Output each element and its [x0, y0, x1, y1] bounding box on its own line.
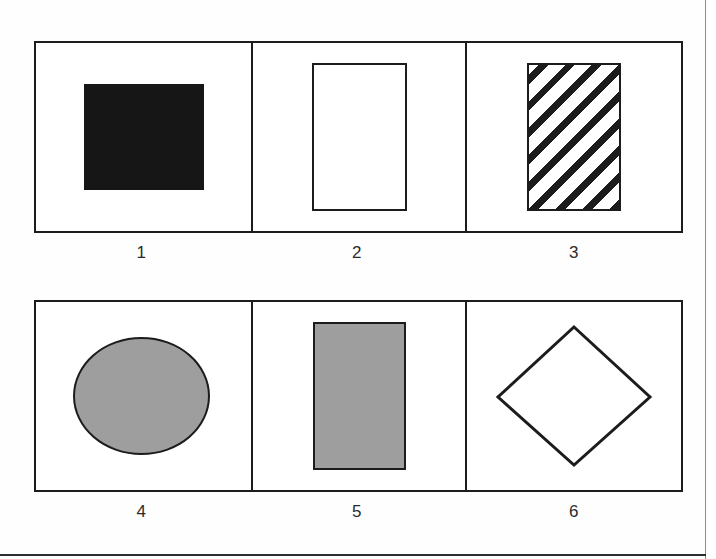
shape-cell-5: [251, 302, 467, 490]
page-edge-bottom-rule: [0, 554, 706, 556]
shape-label-4: 4: [34, 499, 249, 525]
shape-cell-4: [36, 302, 251, 490]
shape-label-2: 2: [249, 240, 465, 266]
solid-black-square-icon: [84, 84, 204, 190]
shape-cell-3: [467, 43, 681, 231]
shape-label-5: 5: [249, 499, 465, 525]
gray-ellipse-icon: [73, 337, 210, 455]
shape-label-3: 3: [465, 240, 683, 266]
shape-cell-2: [251, 43, 467, 231]
shape-row-2: [34, 300, 683, 492]
shape-row-2-labels: 4 5 6: [34, 499, 683, 525]
shape-label-1: 1: [34, 240, 249, 266]
shape-figure: 1 2 3 4 5 6: [0, 0, 706, 554]
hatched-rectangle-icon: [527, 63, 621, 211]
shape-row-1: [34, 41, 683, 233]
gray-rectangle-icon: [313, 322, 406, 470]
hollow-diamond-icon: [494, 321, 654, 471]
shape-label-6: 6: [465, 499, 683, 525]
page-edge-right-rule: [705, 0, 706, 559]
shape-cell-6: [467, 302, 681, 490]
shape-row-1-labels: 1 2 3: [34, 240, 683, 266]
hollow-rectangle-icon: [312, 63, 407, 211]
shape-cell-1: [36, 43, 251, 231]
